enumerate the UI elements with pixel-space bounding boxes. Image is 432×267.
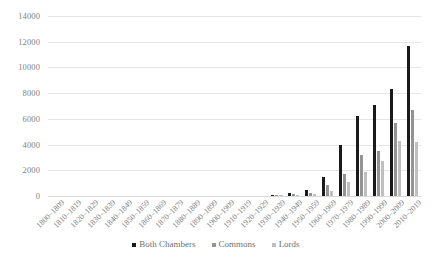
bar-group bbox=[150, 16, 167, 196]
bar bbox=[292, 194, 295, 196]
bar-group bbox=[82, 16, 99, 196]
plot-area bbox=[48, 16, 421, 196]
bar bbox=[288, 193, 291, 196]
bar bbox=[360, 155, 363, 196]
bar-group bbox=[218, 16, 235, 196]
bar bbox=[373, 105, 376, 196]
y-axis-tick-label: 14000 bbox=[18, 12, 40, 21]
legend-item[interactable]: Commons bbox=[212, 240, 256, 249]
legend-item[interactable]: Lords bbox=[272, 240, 300, 249]
bar bbox=[326, 185, 329, 196]
bar-group bbox=[319, 16, 336, 196]
legend-swatch-icon bbox=[132, 243, 136, 247]
bar-group bbox=[235, 16, 252, 196]
legend-label: Commons bbox=[219, 240, 256, 249]
bar-group bbox=[302, 16, 319, 196]
bar bbox=[339, 145, 342, 196]
bar-group bbox=[251, 16, 268, 196]
bar bbox=[322, 177, 325, 196]
bar bbox=[407, 46, 410, 196]
bar-group bbox=[48, 16, 65, 196]
bar bbox=[381, 161, 384, 196]
y-axis: 14000120001000080006000400020000 bbox=[0, 16, 46, 196]
bar bbox=[394, 123, 397, 196]
bar bbox=[377, 151, 380, 196]
bar-group bbox=[99, 16, 116, 196]
bar-group bbox=[184, 16, 201, 196]
bar-group bbox=[353, 16, 370, 196]
bar-group bbox=[116, 16, 133, 196]
bar bbox=[356, 116, 359, 196]
bar bbox=[364, 172, 367, 196]
y-axis-tick-label: 10000 bbox=[18, 63, 40, 72]
bar-group bbox=[65, 16, 82, 196]
y-axis-tick-label: 8000 bbox=[23, 89, 40, 98]
y-axis-tick-label: 12000 bbox=[18, 37, 40, 46]
bar bbox=[415, 142, 418, 196]
y-axis-tick-label: 4000 bbox=[23, 140, 40, 149]
bar bbox=[390, 89, 393, 196]
bar bbox=[305, 190, 308, 196]
bar-group bbox=[133, 16, 150, 196]
bar-group bbox=[167, 16, 184, 196]
bars-layer bbox=[48, 16, 421, 196]
bar-group bbox=[268, 16, 285, 196]
legend: Both ChambersCommonsLords bbox=[0, 240, 432, 249]
bar bbox=[275, 195, 278, 196]
bar bbox=[279, 195, 282, 196]
bar bbox=[343, 174, 346, 196]
axis-baseline bbox=[48, 196, 421, 197]
bar-group bbox=[336, 16, 353, 196]
bar-group bbox=[201, 16, 218, 196]
bar bbox=[398, 141, 401, 196]
legend-item[interactable]: Both Chambers bbox=[132, 240, 195, 249]
y-axis-tick-label: 2000 bbox=[23, 166, 40, 175]
bar bbox=[313, 194, 316, 196]
bar-group bbox=[387, 16, 404, 196]
bar bbox=[347, 182, 350, 196]
legend-label: Both Chambers bbox=[139, 240, 195, 249]
legend-swatch-icon bbox=[212, 243, 216, 247]
y-axis-tick-label: 6000 bbox=[23, 115, 40, 124]
legend-label: Lords bbox=[279, 240, 300, 249]
bar bbox=[271, 195, 274, 196]
bar bbox=[309, 193, 312, 196]
bar-group bbox=[404, 16, 421, 196]
bar bbox=[411, 110, 414, 196]
bar bbox=[296, 195, 299, 196]
bar bbox=[330, 191, 333, 196]
bar-chart: 14000120001000080006000400020000 1800–18… bbox=[0, 0, 432, 267]
y-axis-tick-label: 0 bbox=[36, 192, 40, 201]
bar-group bbox=[370, 16, 387, 196]
legend-swatch-icon bbox=[272, 243, 276, 247]
bar-group bbox=[285, 16, 302, 196]
